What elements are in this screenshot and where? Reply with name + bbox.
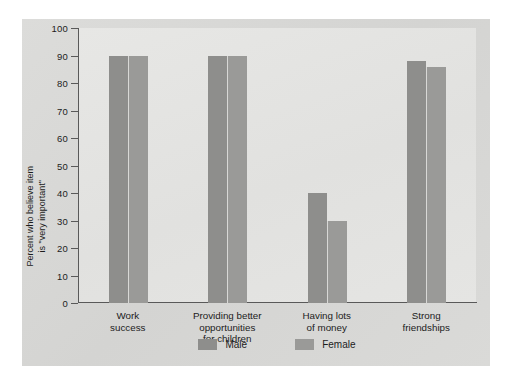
y-tick-mark bbox=[71, 28, 78, 29]
category-label: Worksuccess bbox=[78, 310, 178, 333]
bar-female bbox=[227, 56, 247, 304]
bar-female bbox=[128, 56, 148, 304]
legend-swatch-female bbox=[295, 339, 314, 350]
bar-male bbox=[208, 56, 227, 304]
category-label-line: Providing better bbox=[178, 310, 278, 322]
legend-label-male: Male bbox=[225, 339, 247, 350]
y-tick-mark bbox=[71, 248, 78, 249]
category-label-line: Having lots bbox=[277, 310, 377, 322]
bar-male bbox=[109, 56, 128, 304]
y-tick-mark bbox=[71, 83, 78, 84]
y-axis-title-holder: Percent who believe item is "very import… bbox=[40, 28, 41, 303]
y-tick-label: 100 bbox=[52, 23, 68, 34]
y-tick-mark bbox=[71, 221, 78, 222]
y-axis-title-line2: is "very important" bbox=[36, 180, 46, 252]
category-label-line: success bbox=[78, 322, 178, 334]
chart-figure: Percent who believe item is "very import… bbox=[22, 19, 490, 366]
y-tick-label: 10 bbox=[57, 270, 68, 281]
y-tick-label: 0 bbox=[63, 298, 68, 309]
category-label-line: of money bbox=[277, 322, 377, 334]
category-label: Having lotsof money bbox=[277, 310, 377, 333]
y-axis-line bbox=[78, 28, 79, 303]
y-tick-label: 50 bbox=[57, 160, 68, 171]
y-tick-label: 40 bbox=[57, 188, 68, 199]
category-label: Strongfriendships bbox=[377, 310, 477, 333]
y-tick-mark bbox=[71, 166, 78, 167]
y-tick-mark bbox=[71, 303, 78, 304]
bar-male bbox=[407, 61, 426, 303]
legend-item-male: Male bbox=[198, 339, 247, 350]
y-tick-mark bbox=[71, 111, 78, 112]
bar-group bbox=[208, 28, 247, 303]
bar-group bbox=[109, 28, 148, 303]
y-axis-title: Percent who believe item is "very import… bbox=[25, 166, 48, 267]
chart-legend: Male Female bbox=[78, 339, 476, 350]
category-label-line: Strong bbox=[377, 310, 477, 322]
y-tick-label: 20 bbox=[57, 243, 68, 254]
y-axis-title-line1: Percent who believe item bbox=[25, 166, 35, 267]
bar-female bbox=[327, 221, 347, 304]
y-tick-label: 30 bbox=[57, 215, 68, 226]
y-tick-mark bbox=[71, 138, 78, 139]
bar-female bbox=[426, 67, 446, 304]
category-label-line: Work bbox=[78, 310, 178, 322]
bar-group bbox=[308, 28, 347, 303]
category-label-line: opportunities bbox=[178, 322, 278, 334]
y-tick-mark bbox=[71, 276, 78, 277]
y-tick-label: 90 bbox=[57, 50, 68, 61]
y-tick-label: 80 bbox=[57, 78, 68, 89]
y-tick-label: 60 bbox=[57, 133, 68, 144]
y-tick-label: 70 bbox=[57, 105, 68, 116]
bar-group bbox=[407, 28, 446, 303]
legend-item-female: Female bbox=[295, 339, 355, 350]
legend-label-female: Female bbox=[322, 339, 355, 350]
category-label-line: friendships bbox=[377, 322, 477, 334]
y-tick-mark bbox=[71, 56, 78, 57]
y-tick-mark bbox=[71, 193, 78, 194]
legend-swatch-male bbox=[198, 339, 217, 350]
bar-male bbox=[308, 193, 327, 303]
